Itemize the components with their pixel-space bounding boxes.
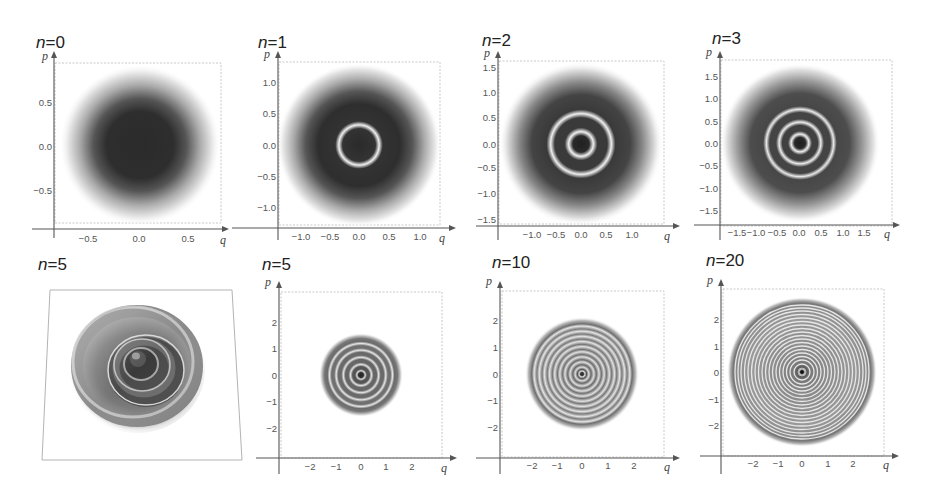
svg-text:0: 0 [799,458,804,469]
svg-text:0.0: 0.0 [263,140,276,151]
x-ticks: −1.0 −0.5 0.0 0.5 1.0 [292,231,427,242]
y-axis-label: p [263,47,270,61]
svg-text:0: 0 [493,369,498,380]
x-axis-arrow-icon [450,455,457,461]
svg-text:0.0: 0.0 [574,229,587,240]
x-axis-label: q [884,227,890,241]
panel-n10: n=10 p q −2 −1 0 1 2 2 1 0 −1 −2 [476,253,680,474]
panel-title: n=10 [492,253,530,272]
svg-text:0: 0 [714,367,719,378]
y-axis-arrow-icon [495,51,501,58]
svg-text:−2: −2 [748,458,759,469]
svg-text:1: 1 [272,343,277,354]
svg-text:1.0: 1.0 [263,77,276,88]
svg-text:−1.0: −1.0 [747,227,766,238]
svg-text:1.5: 1.5 [483,62,496,73]
x-ticks: −2 −1 0 1 2 [748,458,856,469]
svg-text:0: 0 [272,370,277,381]
svg-text:2: 2 [631,460,636,471]
svg-text:−1: −1 [266,396,277,407]
svg-text:2: 2 [272,317,277,328]
density-plot [60,65,220,225]
svg-text:−1.5: −1.5 [477,214,496,225]
x-axis-arrow-icon [673,223,680,229]
panel-n5-3d: n=5 [38,255,242,460]
svg-text:1.0: 1.0 [705,93,718,104]
x-ticks: −1.0 −0.5 0.0 0.5 1.0 [523,229,639,240]
svg-text:1.0: 1.0 [413,231,426,242]
svg-text:1.0: 1.0 [625,229,638,240]
svg-text:−1.0: −1.0 [257,202,276,213]
svg-text:2: 2 [850,458,855,469]
svg-text:0.5: 0.5 [181,233,194,244]
svg-text:−0.5: −0.5 [699,160,718,171]
svg-text:−2: −2 [305,461,316,472]
svg-text:−2: −2 [708,420,719,431]
svg-text:−0.5: −0.5 [547,229,566,240]
svg-text:0.0: 0.0 [352,231,365,242]
svg-text:−2: −2 [266,423,277,434]
svg-text:1: 1 [605,460,610,471]
svg-text:0.5: 0.5 [705,116,718,127]
panel-n1: n=1 p q −1.0 −0.5 0.0 0.5 1.0 1.0 0.5 0.… [232,33,456,245]
y-axis-label: p [41,49,48,63]
x-axis-label: q [441,461,447,475]
y-axis-arrow-icon [717,51,723,58]
y-axis-label: p [483,46,490,60]
svg-text:−1.0: −1.0 [523,229,542,240]
svg-text:−1.0: −1.0 [292,231,311,242]
svg-text:−2: −2 [527,460,538,471]
y-axis-label: p [485,274,492,288]
svg-text:−2: −2 [487,422,498,433]
y-ticks: 1.5 1.0 0.5 0.0 −0.5 −1.0 −1.5 [477,62,496,225]
svg-text:2: 2 [409,461,414,472]
svg-text:−1: −1 [331,461,342,472]
svg-text:0.5: 0.5 [814,227,827,238]
density-plot [525,317,639,431]
svg-text:−0.5: −0.5 [321,231,340,242]
figure: n=0 p q −0.5 0.0 0.5 0.5 0.0 −0.5 n=1 p … [0,0,931,495]
svg-text:−1: −1 [708,394,719,405]
svg-text:−1: −1 [487,395,498,406]
panel-n0: n=0 p q −0.5 0.0 0.5 0.5 0.0 −0.5 [32,33,229,247]
svg-text:−1.0: −1.0 [477,188,496,199]
y-axis-arrow-icon [51,51,57,58]
density-plot [499,62,663,226]
svg-text:−1.0: −1.0 [699,183,718,194]
x-axis-label: q [664,460,670,474]
x-axis-arrow-icon [222,226,229,232]
svg-text:2: 2 [493,315,498,326]
y-ticks: 2 1 0 −1 −2 [487,315,498,433]
svg-text:0.0: 0.0 [792,227,805,238]
panel-title: n=20 [706,251,744,270]
panel-title: n=3 [712,29,741,48]
x-axis-arrow-icon [892,453,899,459]
svg-text:0.0: 0.0 [39,141,52,152]
y-ticks: 0.5 0.0 −0.5 [33,97,52,196]
svg-text:0.5: 0.5 [263,108,276,119]
y-axis-arrow-icon [275,51,281,58]
density-plot [277,63,441,227]
y-axis-label: p [705,45,712,59]
svg-text:1.0: 1.0 [836,227,849,238]
x-axis-label: q [664,229,670,243]
y-ticks: 2 1 0 −1 −2 [266,317,277,434]
x-ticks: −2 −1 0 1 2 [305,461,415,472]
panel-n20: n=20 p q −2 −1 0 1 2 2 1 0 −1 [700,251,899,474]
x-axis-label: q [883,458,889,472]
x-ticks: −2 −1 0 1 2 [527,460,637,471]
svg-text:0.0: 0.0 [705,138,718,149]
x-axis-label: q [439,231,445,245]
panel-title: n=1 [258,33,287,52]
svg-text:−0.5: −0.5 [79,233,98,244]
x-axis-arrow-icon [893,222,900,228]
svg-text:0.5: 0.5 [483,112,496,123]
svg-text:0.0: 0.0 [483,139,496,150]
y-ticks: 1.0 0.5 0.0 −0.5 −1.0 [257,77,276,213]
svg-text:1: 1 [714,341,719,352]
y-axis-arrow-icon [497,281,503,288]
surface-3d [69,307,205,433]
y-axis-label: p [706,273,713,287]
y-ticks: 1.5 1.0 0.5 0.0 −0.5 −1.0 −1.5 [699,71,718,216]
panel-title: n=5 [262,255,291,274]
